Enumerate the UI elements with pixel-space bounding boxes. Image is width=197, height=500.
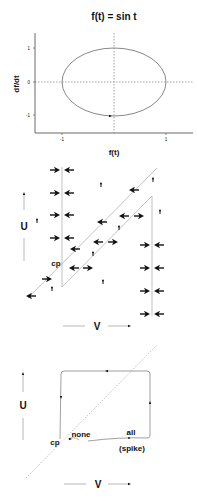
cp-label: cp <box>51 259 60 268</box>
bottom-cycle-diagram: U V cp none all (spike) <box>19 345 157 490</box>
inner-diagonal-nullcline <box>62 196 152 287</box>
none-label: none <box>71 430 91 439</box>
cycle-arrow-right-icon <box>149 401 151 404</box>
cycle-arrow-top-icon <box>105 370 108 372</box>
v-arrow-icon <box>128 325 131 327</box>
u-label: U <box>19 400 26 411</box>
small-flow-markers <box>36 177 161 291</box>
ytick-1: 1 <box>27 46 30 51</box>
xtick-neg1: -1 <box>60 137 64 142</box>
u-arrow-icon <box>23 192 25 195</box>
v-label: V <box>94 321 101 332</box>
cycle-arrow-left-icon <box>60 396 62 399</box>
all-label: all <box>127 428 136 437</box>
u-label: U <box>20 221 27 232</box>
diagonal-dashed-line <box>26 345 157 478</box>
middle-vector-field-diagram: U V <box>20 167 164 332</box>
v-label: V <box>95 479 102 490</box>
ytick-neg1: -1 <box>26 113 30 118</box>
plot-title: f(t) = sin t <box>91 11 137 22</box>
all-point-marker <box>128 437 130 439</box>
u-arrow-icon <box>22 372 24 375</box>
top-phase-plot: f(t) = sin t 1 0 -1 -1 1 f(t) df/dt <box>12 11 193 157</box>
x-axis-label: f(t) <box>109 148 120 157</box>
xtick-1: 1 <box>165 137 168 142</box>
spike-label: (spike) <box>119 444 145 453</box>
figure-canvas: f(t) = sin t 1 0 -1 -1 1 f(t) df/dt U V <box>0 0 197 500</box>
y-axis-label: df/dt <box>12 75 21 93</box>
ytick-0: 0 <box>27 80 30 85</box>
trajectory-direction-arrow-icon <box>109 115 112 117</box>
cp-label: cp <box>50 438 59 447</box>
v-arrow-icon <box>128 483 131 485</box>
